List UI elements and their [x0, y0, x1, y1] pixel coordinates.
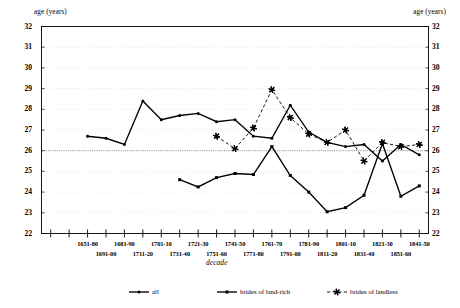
datapoint-1-4 — [252, 173, 255, 176]
datapoint-1-3 — [234, 172, 237, 175]
datapoint-0-9 — [252, 135, 255, 138]
legend-marker-square-icon — [216, 287, 238, 297]
series-line-0 — [88, 101, 420, 161]
series-brides-of-land-rich — [178, 142, 421, 213]
legend-item-all[interactable]: all — [128, 286, 159, 298]
datapoint-0-0 — [86, 135, 89, 138]
plot-area — [0, 0, 460, 308]
datapoint-1-12 — [399, 195, 402, 198]
datapoint-1-1 — [197, 185, 200, 188]
datapoint-0-8 — [234, 118, 237, 121]
datapoint-0-5 — [178, 114, 181, 117]
legend-item-brides-of-land-rich[interactable]: brides of land-rich — [216, 286, 290, 298]
legend-point — [226, 291, 229, 294]
datapoint-1-0 — [178, 178, 181, 181]
datapoint-1-9 — [344, 206, 347, 209]
legend-marker-star-icon — [326, 287, 348, 297]
datapoint-0-3 — [141, 100, 144, 103]
datapoint-1-2 — [215, 176, 218, 179]
datapoint-1-7 — [307, 191, 310, 194]
datapoint-1-6 — [289, 174, 292, 177]
series-all — [86, 100, 421, 163]
legend-label: brides of land-rich — [240, 288, 290, 295]
datapoint-0-1 — [105, 137, 108, 140]
datapoint-0-14 — [344, 145, 347, 148]
datapoint-0-16 — [381, 160, 384, 163]
datapoint-0-2 — [123, 143, 126, 146]
datapoint-0-11 — [289, 104, 292, 107]
chart-container: age (years) age (years) decade 222324252… — [0, 0, 460, 308]
legend-label: brides of landless — [350, 288, 398, 295]
legend-marker-dot-icon — [128, 287, 150, 297]
legend-item-brides-of-landless[interactable]: brides of landless — [326, 286, 398, 298]
datapoint-1-13 — [418, 184, 421, 187]
datapoint-0-7 — [215, 120, 218, 123]
datapoint-0-10 — [270, 137, 273, 140]
datapoint-0-4 — [160, 118, 163, 121]
datapoint-1-8 — [326, 210, 329, 213]
chart-legend: allbrides of land-richbrides of landless — [0, 286, 460, 302]
datapoint-1-5 — [270, 145, 273, 148]
series-line-2 — [217, 90, 420, 161]
legend-point — [138, 291, 141, 294]
datapoint-0-18 — [418, 153, 421, 156]
datapoint-0-15 — [363, 143, 366, 146]
datapoint-0-6 — [197, 112, 200, 115]
legend-label: all — [152, 288, 159, 295]
datapoint-1-10 — [363, 194, 366, 197]
